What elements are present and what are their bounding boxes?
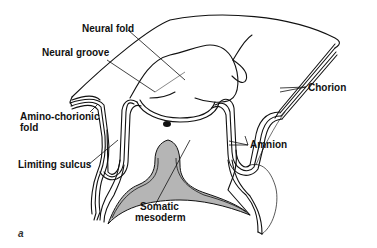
embryo-cross-section-drawing xyxy=(0,0,377,248)
label-somatic-mesoderm-line2: mesoderm xyxy=(135,212,186,223)
label-chorion: Chorion xyxy=(308,82,346,93)
label-limiting-sulcus: Limiting sulcus xyxy=(18,159,91,170)
label-amnion: Amnion xyxy=(250,139,287,150)
label-neural-fold: Neural fold xyxy=(82,23,134,34)
label-amino-chorionic-fold-line2: fold xyxy=(20,122,38,133)
label-amino-chorionic-fold-line1: Amino-chorionic xyxy=(20,111,99,122)
figure-letter: a xyxy=(18,228,24,239)
label-somatic-mesoderm-line1: Somatic xyxy=(140,201,179,212)
label-neural-groove: Neural groove xyxy=(42,47,109,58)
diagram-canvas: Neural fold Neural groove Amino-chorioni… xyxy=(0,0,377,248)
